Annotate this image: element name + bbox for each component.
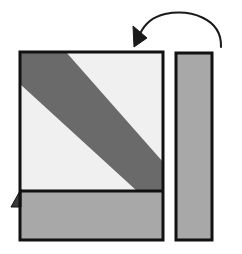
right-panel-group <box>176 53 212 240</box>
left-panel-lower-face <box>20 191 163 240</box>
figure-canvas <box>0 0 242 254</box>
figure-root <box>0 0 242 254</box>
left-panel-group <box>11 52 163 240</box>
right-panel-fill <box>176 53 212 240</box>
